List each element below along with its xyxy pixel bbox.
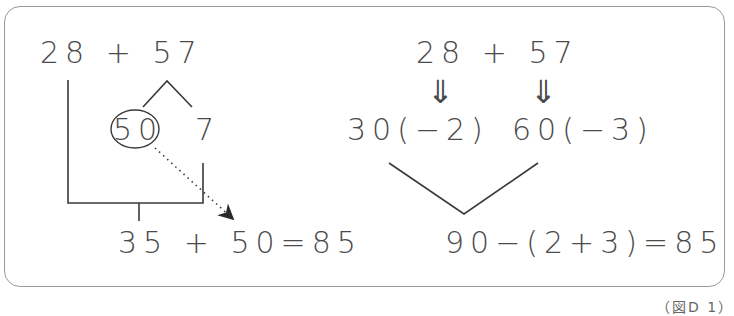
figure-caption: （図D 1） bbox=[656, 296, 734, 316]
dotted-arrow bbox=[155, 148, 232, 218]
circle-highlight bbox=[111, 110, 159, 148]
